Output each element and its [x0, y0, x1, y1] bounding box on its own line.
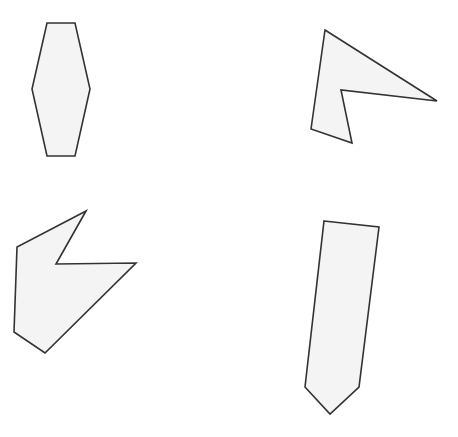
hexagon-shape — [32, 23, 90, 156]
pentagon-tag-shape — [305, 221, 379, 414]
shapes-canvas — [0, 0, 458, 437]
concave-hexagon-shape — [14, 211, 136, 353]
concave-pentagon-shape — [311, 30, 437, 143]
